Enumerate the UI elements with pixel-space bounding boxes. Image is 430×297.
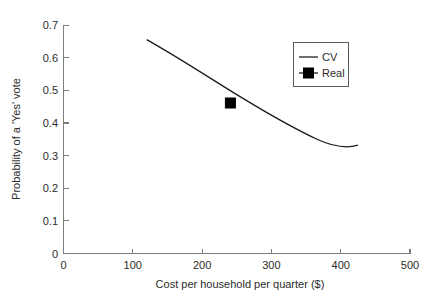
legend-box bbox=[294, 43, 349, 87]
y-tick-label: 0.4 bbox=[43, 117, 58, 129]
x-tick-label: 100 bbox=[124, 259, 142, 271]
y-tick-label: 0.6 bbox=[43, 52, 58, 64]
chart-figure: 0 0.1 0.2 0.3 0.4 0.5 0.6 0.7 0 100 200 … bbox=[0, 0, 430, 297]
legend-entry-real: Real bbox=[299, 67, 345, 79]
y-tick-label: 0.5 bbox=[43, 84, 58, 96]
y-tick-label: 0.3 bbox=[43, 150, 58, 162]
y-tick-label: 0.7 bbox=[43, 19, 58, 31]
legend-label-real: Real bbox=[322, 67, 345, 79]
chart-legend: CV Real bbox=[294, 43, 349, 87]
axis-spines bbox=[64, 25, 411, 254]
x-axis-title: Cost per household per quarter ($) bbox=[156, 278, 325, 290]
chart-canvas: 0 0.1 0.2 0.3 0.4 0.5 0.6 0.7 0 100 200 … bbox=[0, 0, 430, 297]
y-tick-label: 0 bbox=[52, 248, 58, 260]
legend-label-cv: CV bbox=[322, 51, 338, 63]
x-tick-labels: 0 100 200 300 400 500 bbox=[60, 259, 419, 271]
x-tick-label: 200 bbox=[193, 259, 211, 271]
y-axis-title: Probability of a 'Yes' vote bbox=[10, 78, 22, 200]
y-tick-labels: 0 0.1 0.2 0.3 0.4 0.5 0.6 0.7 bbox=[43, 19, 58, 259]
real-data-marker bbox=[225, 98, 235, 108]
x-tick-marks bbox=[64, 249, 411, 254]
y-tick-label: 0.2 bbox=[43, 182, 58, 194]
y-tick-label: 0.1 bbox=[43, 215, 58, 227]
x-tick-label: 500 bbox=[401, 259, 419, 271]
y-tick-marks bbox=[64, 25, 69, 253]
x-tick-label: 300 bbox=[262, 259, 280, 271]
legend-square-swatch-real bbox=[304, 68, 314, 78]
x-tick-label: 400 bbox=[332, 259, 350, 271]
x-tick-label: 0 bbox=[60, 259, 66, 271]
